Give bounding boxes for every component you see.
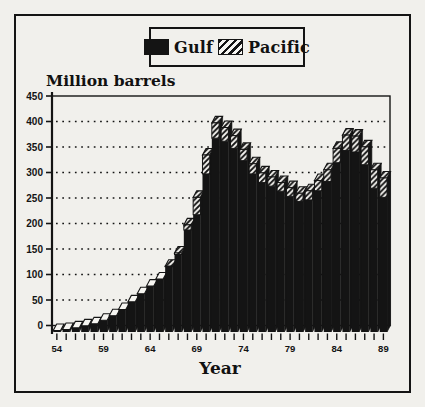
legend-pacific-label: Pacific xyxy=(248,38,310,57)
x-tick-label-74: 74 xyxy=(238,343,249,354)
bar-1959 xyxy=(100,314,111,332)
x-tick-label-54: 54 xyxy=(52,343,63,354)
y-tick-label-450: 450 xyxy=(26,91,43,102)
y-tick-label-350: 350 xyxy=(26,142,43,153)
y-axis: 050100150200250300350400450 xyxy=(26,91,52,332)
legend-gulf-label: Gulf xyxy=(174,38,213,57)
bar-1968 xyxy=(184,218,195,332)
y-axis-title: Million barrels xyxy=(46,71,175,90)
bar-1967 xyxy=(174,246,185,332)
y-tick-label-0: 0 xyxy=(37,320,43,331)
y-tick-label-150: 150 xyxy=(26,244,43,255)
bars xyxy=(53,116,390,332)
legend: Gulf Pacific xyxy=(149,27,305,67)
legend-gulf-swatch-icon xyxy=(144,39,169,55)
bar-1989 xyxy=(380,171,391,332)
y-tick-label-100: 100 xyxy=(26,269,43,280)
bar-1965 xyxy=(156,272,167,332)
x-tick-label-64: 64 xyxy=(145,343,156,354)
bar-1982 xyxy=(314,174,325,332)
bar-1963 xyxy=(137,287,148,332)
bar-1961 xyxy=(119,303,130,332)
legend-pacific-swatch-icon xyxy=(218,39,243,55)
bar-1978 xyxy=(277,176,288,332)
x-tick-label-59: 59 xyxy=(98,343,109,354)
y-tick-label-250: 250 xyxy=(26,193,43,204)
x-tick-label-84: 84 xyxy=(331,343,342,354)
bar-1975 xyxy=(249,157,260,332)
x-tick-label-79: 79 xyxy=(285,343,296,354)
bar-1977 xyxy=(268,170,279,332)
x-axis-title: Year xyxy=(0,358,425,378)
bar-1979 xyxy=(286,181,297,332)
bar-1983 xyxy=(324,163,335,332)
bar-1984 xyxy=(333,142,344,332)
y-tick-label-200: 200 xyxy=(26,218,43,229)
scanned-chart-page: { "page": { "paper_color": "#f1f0ec", "i… xyxy=(0,0,425,407)
bar-1985 xyxy=(342,129,353,332)
bar-1981 xyxy=(305,184,316,332)
x-tick-label-89: 89 xyxy=(378,343,389,354)
bar-1966 xyxy=(165,260,176,332)
bar-1964 xyxy=(147,280,158,332)
bar-1969 xyxy=(193,191,204,332)
bar-1976 xyxy=(258,166,269,332)
bar-1971 xyxy=(212,116,223,332)
y-tick-label-50: 50 xyxy=(32,295,44,306)
x-axis: 5459646974798489 xyxy=(52,334,389,355)
y-tick-label-400: 400 xyxy=(26,116,43,127)
x-tick-label-69: 69 xyxy=(192,343,203,354)
bar-1972 xyxy=(221,121,232,332)
bar-1962 xyxy=(128,295,139,332)
y-tick-label-300: 300 xyxy=(26,167,43,178)
bar-1970 xyxy=(202,149,213,332)
bar-1960 xyxy=(109,309,120,332)
bar-1980 xyxy=(296,187,307,332)
